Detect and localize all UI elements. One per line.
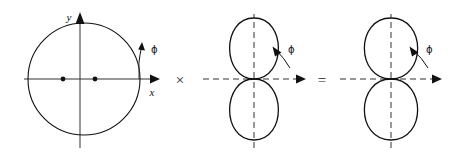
x-axis-arrowhead-panel1 xyxy=(150,75,160,84)
panel-element-pattern: ϕ xyxy=(203,14,306,148)
pattern-multiplication-figure: y x ϕ × ϕ = xyxy=(0,0,452,156)
panel-array-factor: y x ϕ xyxy=(24,11,160,148)
panel-total-pattern: ϕ xyxy=(340,14,442,148)
element-dot-right xyxy=(93,77,98,82)
multiply-operator: × xyxy=(176,72,184,88)
element-pattern-lower-lobe xyxy=(230,79,279,140)
equals-operator: = xyxy=(318,72,326,88)
total-pattern-lower-lobe xyxy=(364,79,417,140)
x-axis-label: x xyxy=(149,86,155,98)
phi-label-panel1: ϕ xyxy=(151,44,158,55)
y-axis-label: y xyxy=(66,11,72,23)
diagram-canvas: y x ϕ × ϕ = xyxy=(0,0,452,156)
phi-arrowhead-panel1 xyxy=(138,42,145,51)
element-dot-left xyxy=(61,77,66,82)
phi-label-panel3: ϕ xyxy=(426,44,433,55)
x-axis-arrowhead-panel2 xyxy=(296,75,306,84)
x-axis-arrowhead-panel3 xyxy=(432,75,442,84)
y-axis-arrowhead-panel1 xyxy=(76,12,85,24)
phi-label-panel2: ϕ xyxy=(288,44,295,55)
